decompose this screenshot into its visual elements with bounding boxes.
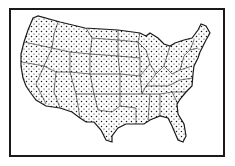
us-outline	[21, 16, 210, 142]
us-dot-map	[0, 0, 235, 166]
